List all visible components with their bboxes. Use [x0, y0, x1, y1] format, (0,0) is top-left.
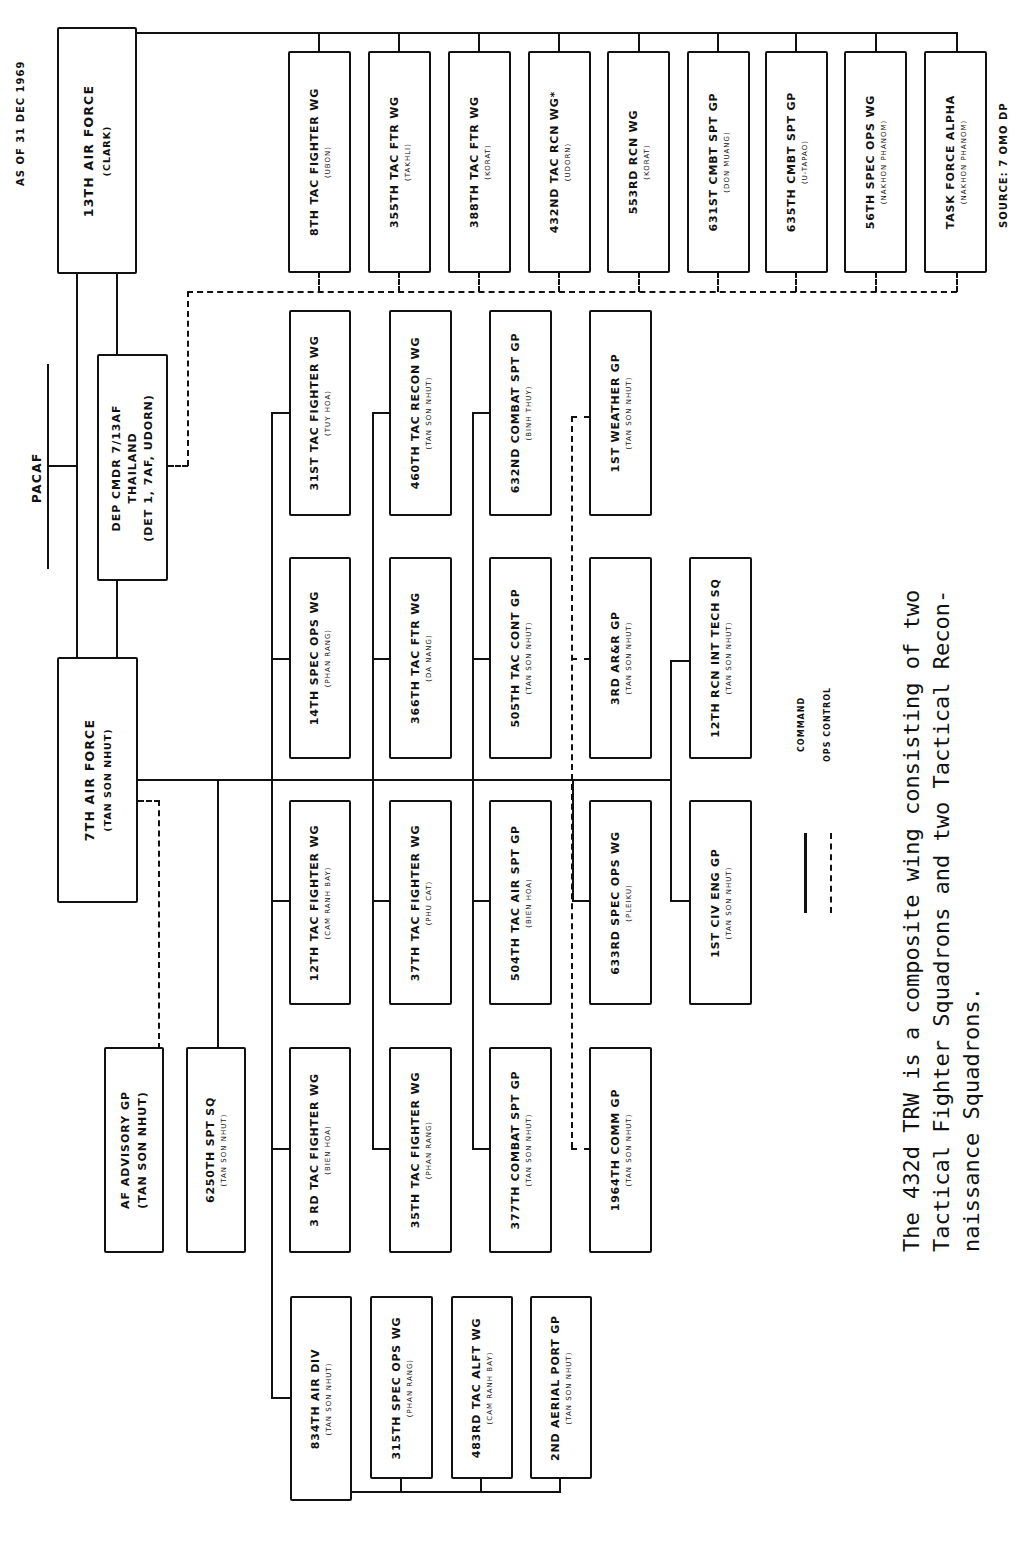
node-3rd-arr-gp[interactable]: 3RD AR&R GP(TAN SON NHUT) — [589, 557, 652, 759]
node-dep-cmdr-thailand[interactable]: DEP CMDR 7/13AF THAILAND (DET 1, 7AF, UD… — [97, 354, 168, 581]
node-12th-rcn-int-tech-sq[interactable]: 12TH RCN INT TECH SQ(TAN SON NHUT) — [689, 557, 752, 759]
tick — [558, 272, 560, 292]
node-834th-air-div[interactable]: 834TH AIR DIV(TAN SON NHUT) — [290, 1296, 352, 1501]
node-name: 504TH TAC AIR SPT GP — [507, 825, 522, 981]
node-35th-tac-fighter-wg[interactable]: 35TH TAC FIGHTER WG(PHAN RANG) — [389, 1047, 452, 1253]
node-location: (TAN SON NHUT) — [218, 1097, 230, 1203]
node-377th-combat-spt-gp[interactable]: 377TH COMBAT SPT GP(TAN SON NHUT) — [489, 1047, 552, 1253]
node-1st-weather-gp[interactable]: 1ST WEATHER GP(TAN SON NHUT) — [589, 310, 652, 516]
node-location: (BINH THUY) — [522, 333, 534, 493]
node-355th-tac-ftr-wg[interactable]: 355TH TAC FTR WG(TAKHLI) — [368, 51, 431, 273]
node-388th-tac-ftr-wg[interactable]: 388TH TAC FTR WG(KORAT) — [448, 51, 511, 273]
node-name: 56TH SPEC OPS WG — [862, 95, 877, 229]
node-632nd-combat-spt-gp[interactable]: 632ND COMBAT SPT GP(BINH THUY) — [489, 310, 552, 516]
node-location: (DET 1, 7AF, UDORN) — [141, 394, 157, 542]
conn — [271, 658, 289, 660]
node-3rd-tac-fighter-wg[interactable]: 3 RD TAC FIGHTER WG(BIEN HOA) — [289, 1047, 351, 1253]
node-37th-tac-fighter-wg[interactable]: 37TH TAC FIGHTER WG(PHU CAT) — [389, 800, 452, 1005]
command-line-col-b — [372, 412, 374, 1149]
node-name: 632ND COMBAT SPT GP — [507, 333, 522, 493]
node-location: (PHAN RANG) — [403, 1316, 415, 1459]
node-name: 460TH TAC RECON WG — [407, 337, 422, 490]
node-553rd-rcn-wg[interactable]: 553RD RCN WG(KORAT) — [607, 51, 670, 273]
footnote-line-3: naissance Squadrons. — [957, 590, 987, 1252]
node-14th-spec-ops-wg[interactable]: 14TH SPEC OPS WG(PHAN RANG) — [289, 557, 351, 759]
tick — [638, 32, 640, 52]
node-1964th-comm-gp[interactable]: 1964TH COMM GP(TAN SON NHUT) — [589, 1047, 652, 1253]
node-name: 35TH TAC FIGHTER WG — [407, 1072, 422, 1228]
node-location: (UBON) — [321, 88, 333, 236]
conn — [271, 900, 289, 902]
footnote: The 432d TRW is a composite wing consist… — [897, 590, 987, 1252]
footnote-line-1: The 432d TRW is a composite wing consist… — [897, 590, 927, 1252]
node-1st-civ-eng-gp[interactable]: 1ST CIV ENG GP(TAN SON NHUT) — [689, 800, 752, 1005]
node-name: 635TH CMBT SPT GP — [783, 92, 798, 232]
command-line-13af-7af-a — [76, 273, 78, 658]
node-13th-air-force[interactable]: 13TH AIR FORCE(CLARK) — [57, 27, 137, 274]
conn — [372, 900, 390, 902]
node-635th-cmbt-spt-gp[interactable]: 635TH CMBT SPT GP(U-TAPAO) — [765, 51, 828, 273]
command-line-13af-dep — [116, 273, 118, 355]
node-name: 505TH TAC CONT GP — [507, 588, 522, 727]
node-name: 366TH TAC FTR WG — [407, 592, 422, 724]
node-name: TASK FORCE ALPHA — [942, 95, 957, 229]
node-505th-tac-cont-gp[interactable]: 505TH TAC CONT GP(TAN SON NHUT) — [489, 557, 552, 759]
node-483rd-tac-alft-wg[interactable]: 483RD TAC ALFT WG(CAM RANH BAY) — [451, 1296, 513, 1479]
node-name: 3RD AR&R GP — [607, 611, 622, 705]
pacaf-label: PACAF — [30, 452, 44, 503]
node-task-force-alpha[interactable]: TASK FORCE ALPHA(NAKHON PHANOM) — [924, 51, 987, 273]
node-location: (TAN SON NHUT) — [622, 1089, 634, 1212]
node-name: 31ST TAC FIGHTER WG — [307, 335, 322, 490]
node-location: (TAN SON NHUT) — [134, 1091, 151, 1209]
node-location: (TAN SON NHUT) — [323, 1348, 335, 1449]
node-location: (TAN SON NHUT) — [422, 337, 434, 490]
tick — [480, 1478, 482, 1492]
node-366th-tac-ftr-wg[interactable]: 366TH TAC FTR WG(DA NANG) — [389, 557, 452, 759]
node-56th-spec-ops-wg[interactable]: 56TH SPEC OPS WG(NAKHON PHANOM) — [844, 51, 907, 273]
node-8th-tac-fighter-wg[interactable]: 8TH TAC FIGHTER WG(UBON) — [288, 51, 351, 273]
tick — [717, 32, 719, 52]
node-460th-tac-recon-wg[interactable]: 460TH TAC RECON WG(TAN SON NHUT) — [389, 310, 452, 516]
command-line-834th — [351, 1491, 561, 1493]
pacaf-connector — [48, 465, 78, 467]
node-7th-air-force[interactable]: 7TH AIR FORCE(TAN SON NHUT) — [57, 657, 138, 903]
tick — [638, 272, 640, 292]
node-504th-tac-air-spt-gp[interactable]: 504TH TAC AIR SPT GP(BIEN HOA) — [489, 800, 552, 1005]
command-line-6250th — [217, 779, 219, 1049]
node-af-advisory-gp[interactable]: AF ADVISORY GP(TAN SON NHUT) — [104, 1047, 164, 1253]
legend-command-line-icon — [804, 833, 807, 913]
node-name: 8TH TAC FIGHTER WG — [306, 88, 321, 236]
node-location: (NAKHON PHANOM) — [877, 95, 889, 229]
node-location: (KORAT) — [640, 110, 652, 215]
node-31st-tac-fighter-wg[interactable]: 31ST TAC FIGHTER WG(TUY HOA) — [289, 310, 351, 516]
node-315th-spec-ops-wg[interactable]: 315TH SPEC OPS WG(PHAN RANG) — [370, 1296, 433, 1479]
node-name: 12TH RCN INT TECH SQ — [707, 578, 722, 737]
node-name: 13TH AIR FORCE — [79, 84, 99, 216]
node-name: 7TH AIR FORCE — [80, 719, 100, 841]
command-line-col-a — [271, 412, 273, 1398]
command-line-col-e — [670, 660, 672, 901]
conn — [670, 660, 690, 662]
node-name: 355TH TAC FTR WG — [386, 96, 401, 228]
conn — [372, 658, 390, 660]
conn — [372, 412, 390, 414]
tick — [559, 1478, 561, 1492]
node-location: (TAN SON NHUT) — [522, 1071, 534, 1230]
tick — [795, 32, 797, 52]
node-name: 631ST CMBT SPT GP — [705, 93, 720, 232]
node-12th-tac-fighter-wg[interactable]: 12TH TAC FIGHTER WG(CAM RANH BAY) — [289, 800, 351, 1005]
node-2nd-aerial-port-gp[interactable]: 2ND AERIAL PORT GP(TAN SON NHUT) — [530, 1296, 592, 1479]
node-name: 388TH TAC FTR WG — [466, 96, 481, 228]
node-location: (TAN SON NHUT) — [722, 848, 734, 957]
node-633rd-spec-ops-wg[interactable]: 633RD SPEC OPS WG(PLEIKU) — [589, 800, 652, 1005]
tick — [558, 32, 560, 52]
node-name: 834TH AIR DIV — [308, 1348, 323, 1449]
source-note: SOURCE: 7 OMO DP — [998, 102, 1009, 228]
node-name: 315TH SPEC OPS WG — [388, 1316, 403, 1459]
node-location: (TAN SON NHUT) — [622, 353, 634, 472]
node-6250th-spt-sq[interactable]: 6250TH SPT SQ(TAN SON NHUT) — [186, 1047, 246, 1253]
node-631st-cmbt-spt-gp[interactable]: 631ST CMBT SPT GP(DON MUANG) — [687, 51, 750, 273]
command-line-thailand — [136, 32, 958, 34]
conn — [472, 658, 490, 660]
node-432nd-tac-rcn-wg[interactable]: 432ND TAC RCN WG*(UDORN) — [528, 51, 591, 273]
